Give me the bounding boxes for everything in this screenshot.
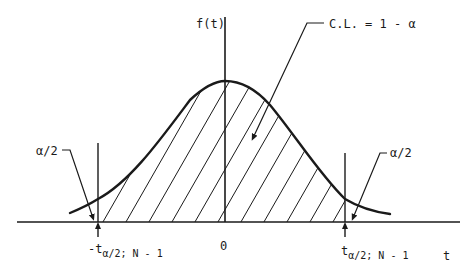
center-callout-arrow-icon bbox=[253, 23, 324, 138]
right-tail-label: α/2 bbox=[390, 147, 412, 159]
y-axis-label: f(t) bbox=[196, 18, 225, 30]
center-callout-label: C.L. = 1 - α bbox=[329, 18, 416, 30]
left-tail-label: α/2 bbox=[36, 145, 58, 157]
density-curve bbox=[70, 81, 390, 214]
right-critical-value-label: tα/2; N - 1 bbox=[341, 245, 408, 261]
left-tail-callout-arrow-icon bbox=[62, 150, 93, 218]
x-axis-label: t bbox=[443, 250, 450, 262]
hatched-confidence-region bbox=[34, 70, 443, 262]
t-distribution-diagram bbox=[0, 0, 475, 280]
left-critical-value-label: -tα/2; N - 1 bbox=[88, 243, 163, 259]
right-tail-callout-arrow-icon bbox=[353, 153, 387, 218]
left-critical-prefix: -t bbox=[88, 242, 102, 256]
origin-label: 0 bbox=[220, 240, 227, 252]
left-critical-subscript: α/2; N - 1 bbox=[102, 248, 162, 259]
right-critical-subscript: α/2; N - 1 bbox=[348, 250, 408, 261]
